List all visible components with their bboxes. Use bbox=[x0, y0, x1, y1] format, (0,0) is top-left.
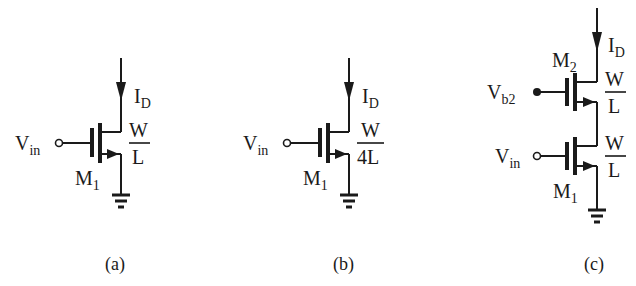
drain-current-arrow bbox=[592, 8, 602, 82]
ratio-denominator: L bbox=[608, 95, 620, 117]
input-terminal-icon bbox=[534, 153, 541, 160]
ratio-numerator: W bbox=[129, 119, 148, 141]
input-terminal-icon bbox=[284, 140, 291, 147]
bias-label: Vb2 bbox=[487, 81, 515, 107]
aspect-ratio: W L bbox=[129, 119, 150, 168]
panel-a: ID Vin M1 W L (a) bbox=[15, 58, 151, 275]
ratio-denominator: L bbox=[608, 159, 620, 181]
source-arrow-icon bbox=[583, 97, 595, 107]
transistor-label: M1 bbox=[75, 167, 100, 193]
current-label: ID bbox=[608, 34, 625, 60]
ground-icon bbox=[112, 195, 130, 207]
ratio-denominator: 4L bbox=[357, 146, 379, 168]
ratio-numerator: W bbox=[605, 68, 624, 90]
source-arrow-icon bbox=[107, 149, 119, 159]
bias-terminal-icon bbox=[533, 88, 541, 96]
input-label: Vin bbox=[495, 145, 520, 171]
ratio-numerator: W bbox=[361, 119, 380, 141]
current-label: ID bbox=[362, 85, 379, 111]
input-label: Vin bbox=[243, 132, 268, 158]
input-label: Vin bbox=[15, 132, 40, 158]
transistor-m1 bbox=[540, 137, 597, 175]
ground-icon bbox=[588, 210, 606, 222]
top-aspect-ratio: W L bbox=[605, 68, 626, 117]
circuit-figure: ID Vin M1 W L (a) ID Vin M1 W bbox=[0, 0, 636, 286]
drain-current-arrow bbox=[116, 58, 126, 132]
ratio-numerator: W bbox=[605, 132, 624, 154]
transistor-label: M1 bbox=[303, 167, 328, 193]
panel-b: ID Vin M1 W 4L (b) bbox=[243, 58, 384, 275]
input-terminal-icon bbox=[56, 140, 63, 147]
panel-c: ID M2 Vb2 Vin M1 W L W L (c) bbox=[487, 8, 626, 275]
caption-b: (b) bbox=[333, 254, 354, 275]
current-label: ID bbox=[134, 85, 151, 111]
source-arrow-icon bbox=[335, 149, 347, 159]
bottom-aspect-ratio: W L bbox=[605, 132, 626, 181]
ratio-denominator: L bbox=[132, 146, 144, 168]
caption-c: (c) bbox=[584, 254, 604, 275]
source-arrow-icon bbox=[583, 161, 595, 171]
ground-icon bbox=[340, 195, 358, 207]
aspect-ratio: W 4L bbox=[357, 119, 384, 168]
transistor-m2 bbox=[540, 73, 597, 111]
bottom-transistor-label: M1 bbox=[553, 180, 578, 206]
caption-a: (a) bbox=[105, 254, 125, 275]
top-transistor-label: M2 bbox=[552, 49, 577, 75]
drain-current-arrow bbox=[344, 58, 354, 132]
